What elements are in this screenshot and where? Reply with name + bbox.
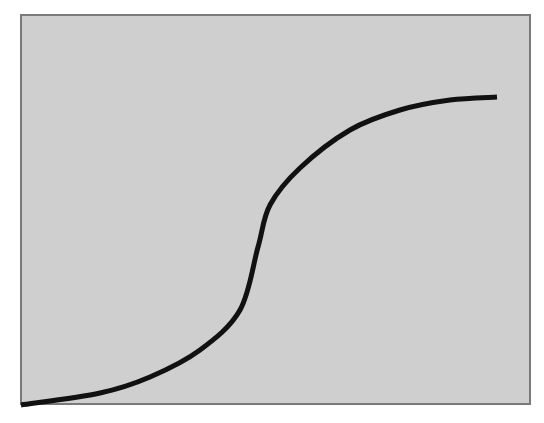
curve-series	[21, 97, 497, 405]
s-curve-line	[0, 0, 544, 423]
